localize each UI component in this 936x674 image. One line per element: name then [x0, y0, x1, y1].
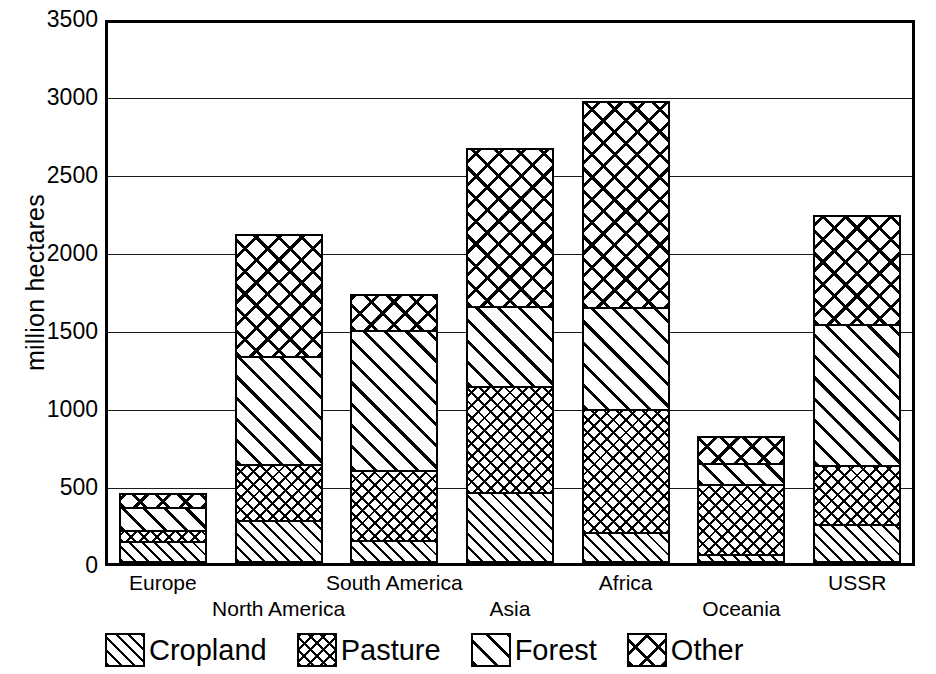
legend-item-pasture[interactable]: Pasture	[297, 633, 441, 667]
bar-segment-other	[119, 493, 207, 509]
bar-south-america	[350, 294, 438, 563]
legend-label: Pasture	[341, 635, 441, 665]
y-axis-tick-label: 3000	[0, 86, 98, 109]
legend-swatch-pasture-icon	[297, 633, 337, 667]
legend-swatch-cropland-icon	[105, 633, 145, 667]
bar-segment-forest	[813, 324, 901, 468]
bar-segment-cropland	[582, 532, 670, 563]
bar-segment-forest	[697, 463, 785, 486]
bar-segment-pasture	[466, 386, 554, 494]
y-axis-tick-label: 0	[0, 554, 98, 577]
bar-segment-cropland	[813, 524, 901, 563]
legend-item-cropland[interactable]: Cropland	[105, 633, 267, 667]
bar-oceania	[697, 436, 785, 563]
x-axis-tick-label: USSR	[828, 572, 886, 594]
stacked-bar-chart: million hectares 05001000150020002500300…	[0, 0, 936, 674]
bar-segment-pasture	[582, 409, 670, 534]
y-axis-tick-label: 3500	[0, 8, 98, 31]
bar-europe	[119, 493, 207, 563]
legend-item-forest[interactable]: Forest	[471, 633, 597, 667]
y-axis-tick-label: 500	[0, 476, 98, 499]
bar-group	[108, 23, 912, 563]
legend-label: Forest	[515, 635, 597, 665]
bar-north-america	[235, 234, 323, 563]
legend-swatch-forest-icon	[471, 633, 511, 667]
bar-segment-other	[235, 234, 323, 359]
bar-segment-cropland	[466, 492, 554, 563]
legend: CroplandPastureForestOther	[105, 628, 915, 672]
bar-segment-forest	[235, 356, 323, 465]
y-axis-tick-label: 2000	[0, 242, 98, 265]
legend-swatch-other-icon	[627, 633, 667, 667]
x-axis-tick-label: Africa	[599, 572, 653, 594]
bar-ussr	[813, 215, 901, 563]
y-axis-tick-label: 1000	[0, 398, 98, 421]
y-axis-tick-label: 1500	[0, 320, 98, 343]
bar-segment-pasture	[813, 465, 901, 526]
x-axis-tick-label: South America	[326, 572, 463, 594]
bar-segment-pasture	[350, 470, 438, 542]
bar-segment-cropland	[350, 540, 438, 563]
bar-segment-cropland	[235, 520, 323, 563]
bar-segment-other	[582, 101, 670, 308]
bar-segment-other	[813, 215, 901, 326]
y-axis-tick-labels: 0500100015002000250030003500	[0, 0, 98, 674]
bar-asia	[466, 148, 554, 563]
x-axis-tick-label: Asia	[490, 598, 531, 620]
x-axis-tick-label: Oceania	[702, 598, 780, 620]
bar-segment-cropland	[119, 541, 207, 563]
x-axis-tick-label: Europe	[129, 572, 197, 594]
y-axis-tick-label: 2500	[0, 164, 98, 187]
bar-segment-forest	[119, 507, 207, 532]
bar-segment-forest	[350, 330, 438, 472]
x-axis-tick-label: North America	[212, 598, 345, 620]
bar-segment-forest	[582, 307, 670, 412]
x-axis-tick-labels: EuropeNorth AmericaSouth AmericaAsiaAfri…	[105, 566, 915, 632]
bar-africa	[582, 101, 670, 563]
bar-segment-pasture	[697, 484, 785, 556]
legend-label: Other	[671, 635, 744, 665]
bar-segment-other	[697, 436, 785, 466]
bar-segment-other	[466, 148, 554, 308]
legend-item-other[interactable]: Other	[627, 633, 744, 667]
legend-label: Cropland	[149, 635, 267, 665]
bar-segment-pasture	[235, 464, 323, 523]
bar-segment-forest	[466, 306, 554, 389]
bar-segment-other	[350, 294, 438, 331]
plot-area	[105, 20, 915, 566]
